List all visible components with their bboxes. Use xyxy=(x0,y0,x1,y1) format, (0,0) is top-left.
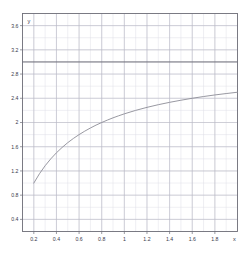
y-tick-label: 0.8 xyxy=(11,192,18,198)
y-tick-label: 2.4 xyxy=(11,95,18,101)
y-tick-label: 1.6 xyxy=(11,144,18,150)
chart-svg: 0.20.40.60.811.21.41.61.80.40.81.21.622.… xyxy=(0,0,249,259)
y-tick-label: 3.6 xyxy=(11,23,18,29)
y-axis-label: y xyxy=(28,18,31,24)
x-axis-label: x xyxy=(233,236,236,242)
y-tick-label: 2 xyxy=(16,119,19,125)
y-tick-label: 1.2 xyxy=(11,168,18,174)
x-tick-label: 1.6 xyxy=(189,236,196,242)
x-tick-label: 1 xyxy=(123,236,126,242)
x-tick-label: 0.2 xyxy=(30,236,37,242)
y-tick-label: 3.2 xyxy=(11,47,18,53)
chart-figure: 0.20.40.60.811.21.41.61.80.40.81.21.622.… xyxy=(0,0,249,259)
x-tick-label: 0.4 xyxy=(53,236,60,242)
x-tick-label: 1.2 xyxy=(143,236,150,242)
x-tick-label: 0.8 xyxy=(98,236,105,242)
x-tick-label: 0.6 xyxy=(75,236,82,242)
x-tick-label: 1.8 xyxy=(211,236,218,242)
x-tick-label: 1.4 xyxy=(166,236,173,242)
y-tick-label: 0.4 xyxy=(11,216,18,222)
y-tick-label: 2.8 xyxy=(11,71,18,77)
